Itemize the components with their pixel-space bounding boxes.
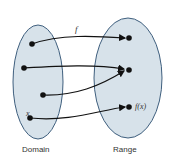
diagram-canvas <box>0 0 171 161</box>
range-point-2 <box>126 67 132 73</box>
range-point-fx <box>126 104 132 110</box>
function-diagram: f x f(x) Domain Range <box>0 0 171 161</box>
image-label: f(x) <box>135 102 146 111</box>
range-label: Range <box>113 145 137 154</box>
domain-point-2 <box>21 65 27 71</box>
domain-point-3 <box>40 92 46 98</box>
function-label: f <box>75 24 78 34</box>
range-point-1 <box>126 35 132 41</box>
element-label: x <box>26 109 30 118</box>
domain-label: Domain <box>22 145 50 154</box>
domain-point-1 <box>29 41 35 47</box>
